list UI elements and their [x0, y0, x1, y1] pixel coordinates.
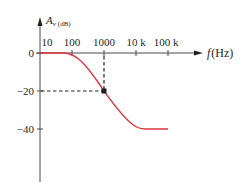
data-point-marker: [102, 89, 107, 94]
x-tick-label: 100: [64, 36, 81, 48]
y-tick-labels: 0 −20 −40: [17, 47, 35, 135]
x-axis-arrow-icon: [194, 51, 203, 56]
frequency-response-chart: Av(dB) f(Hz) 10 100 1000 10 k 100 k 0 −2…: [0, 0, 245, 196]
y-tick-label: 0: [29, 47, 35, 59]
y-tick-label: −20: [17, 85, 35, 97]
y-tick-label: −40: [17, 123, 35, 135]
x-tick-labels: 10 100 1000 10 k 100 k: [42, 36, 179, 48]
y-axis-label: Av(dB): [45, 14, 71, 28]
x-tick-label: 1000: [93, 36, 116, 48]
x-tick-label: 10: [42, 36, 54, 48]
x-axis-label: f(Hz): [207, 46, 233, 60]
x-tick-label: 100 k: [154, 36, 179, 48]
x-tick-label: 10 k: [126, 36, 146, 48]
y-axis-arrow-icon: [38, 17, 43, 26]
